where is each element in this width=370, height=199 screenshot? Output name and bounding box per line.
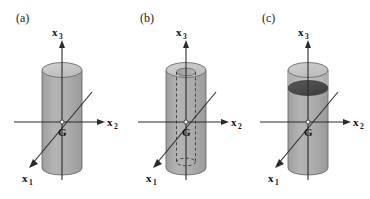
axis-x3-subscript: 3 xyxy=(183,32,187,41)
centroid-label: G xyxy=(58,126,67,138)
panel-label-b: (b) xyxy=(140,11,154,25)
axis-x3-arrowhead xyxy=(305,40,311,48)
axis-x1-subscript: 1 xyxy=(275,178,279,187)
axis-x2-arrowhead xyxy=(343,119,351,125)
axis-x2-arrowhead xyxy=(97,119,105,125)
origin-point xyxy=(306,120,310,124)
axis-x1-subscript: 1 xyxy=(29,178,33,187)
axis-x2-subscript: 2 xyxy=(114,122,118,131)
origin-point xyxy=(184,120,188,124)
axis-x1-arrowhead xyxy=(29,159,38,168)
axis-x1-arrowhead xyxy=(275,159,284,168)
axis-x3-arrowhead xyxy=(183,40,189,48)
axis-x2-subscript: 2 xyxy=(360,122,364,131)
panel-a-solid-cylinder: (a) x 3 x 2 x 1 G xyxy=(0,0,124,199)
centroid-label: G xyxy=(182,126,191,138)
panel-label-a: (a) xyxy=(16,11,29,25)
axis-x1-label: x xyxy=(268,172,274,184)
axis-x3-label: x xyxy=(52,26,58,38)
origin-point xyxy=(60,120,64,124)
axis-x1-label: x xyxy=(22,172,28,184)
figure-root: (a) x 3 x 2 x 1 G xyxy=(0,0,370,199)
centroid-label: G xyxy=(304,126,313,138)
panel-c-filled-cylinder: (c) x 3 x 2 x 1 G xyxy=(248,0,370,199)
axis-x2-label: x xyxy=(353,116,359,128)
axis-x3-subscript: 3 xyxy=(305,32,309,41)
axis-x3-subscript: 3 xyxy=(59,32,63,41)
axis-x1-label: x xyxy=(146,172,152,184)
axis-x3-label: x xyxy=(298,26,304,38)
axis-x2-subscript: 2 xyxy=(238,122,242,131)
axis-x2-label: x xyxy=(107,116,113,128)
axis-x1-subscript: 1 xyxy=(153,178,157,187)
axis-x2-arrowhead xyxy=(221,119,229,125)
axis-x1-arrowhead xyxy=(153,159,162,168)
axis-x2-label: x xyxy=(231,116,237,128)
axis-x3-arrowhead xyxy=(59,40,65,48)
axis-x3-label: x xyxy=(176,26,182,38)
panel-label-c: (c) xyxy=(262,11,275,25)
panel-b-hollow-cylinder: (b) x 3 x 2 x 1 G xyxy=(124,0,248,199)
